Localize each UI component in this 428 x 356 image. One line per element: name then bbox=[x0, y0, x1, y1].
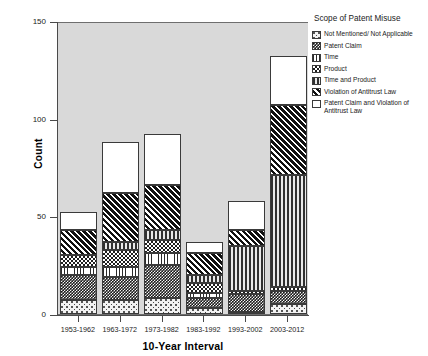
legend-item[interactable]: Not Mentioned/ Not Applicable bbox=[312, 30, 426, 39]
bar-segment bbox=[102, 142, 139, 193]
x-tick-mark bbox=[120, 315, 121, 322]
legend-item-label: Violation of Antitrust Law bbox=[324, 88, 426, 96]
bar-segment bbox=[270, 304, 307, 314]
legend-item[interactable]: Product bbox=[312, 65, 426, 74]
y-tick-mark bbox=[50, 315, 57, 316]
legend-swatch-icon bbox=[312, 77, 321, 85]
bar-segment bbox=[102, 300, 139, 314]
bar-segment bbox=[270, 175, 307, 286]
legend-item-label: Patent Claim and Violation of Antitrust … bbox=[324, 99, 426, 115]
legend-item[interactable]: Time bbox=[312, 53, 426, 62]
bar-group bbox=[60, 21, 97, 314]
legend-item-label: Time bbox=[324, 53, 426, 61]
bar-segment bbox=[144, 230, 181, 240]
bar-segment bbox=[186, 308, 223, 314]
bar-segment bbox=[60, 300, 97, 314]
bar-segment bbox=[144, 253, 181, 265]
legend-swatch-icon bbox=[312, 31, 321, 39]
legend-item-label: Time and Product bbox=[324, 76, 426, 84]
bar-group bbox=[144, 21, 181, 314]
bar-segment bbox=[144, 265, 181, 298]
bar-segment bbox=[228, 246, 265, 291]
y-tick-label: 50 bbox=[0, 213, 46, 221]
bar-segment bbox=[60, 275, 97, 300]
bar-segment bbox=[144, 185, 181, 230]
bar-segment bbox=[102, 193, 139, 242]
x-tick-label: 2003-2012 bbox=[261, 325, 313, 334]
bar-segment bbox=[186, 298, 223, 308]
x-tick-mark bbox=[203, 315, 204, 322]
bar-segment bbox=[144, 240, 181, 254]
stacked-bar-chart: 150100500 Count 1953-19621963-19721973-1… bbox=[0, 0, 428, 356]
bar-segment bbox=[60, 267, 97, 275]
x-axis-title: 10-Year Interval bbox=[57, 340, 309, 352]
legend-item-label: Not Mentioned/ Not Applicable bbox=[324, 30, 426, 38]
bar-segment bbox=[60, 230, 97, 255]
plot-area bbox=[57, 22, 308, 315]
bar-segment bbox=[60, 212, 97, 230]
legend-item[interactable]: Time and Product bbox=[312, 76, 426, 85]
y-tick-label: 0 bbox=[0, 311, 46, 319]
legend-item[interactable]: Patent Claim and Violation of Antitrust … bbox=[312, 99, 426, 115]
bar-segment bbox=[102, 250, 139, 268]
legend-items: Not Mentioned/ Not ApplicablePatent Clai… bbox=[312, 30, 426, 115]
legend-item[interactable]: Violation of Antitrust Law bbox=[312, 88, 426, 97]
legend-swatch-icon bbox=[312, 65, 321, 73]
bar-segment bbox=[270, 105, 307, 175]
legend-swatch-icon bbox=[312, 42, 321, 50]
legend-item-label: Patent Claim bbox=[324, 42, 426, 50]
bar-segment bbox=[144, 298, 181, 314]
x-tick-mark bbox=[245, 315, 246, 322]
bar-segment bbox=[102, 267, 139, 277]
x-tick-mark bbox=[78, 315, 79, 322]
bar-group bbox=[102, 21, 139, 314]
bars-layer bbox=[58, 23, 308, 314]
legend-swatch-icon bbox=[312, 54, 321, 62]
bar-segment bbox=[60, 255, 97, 267]
y-tick-mark bbox=[50, 120, 57, 121]
bar-segment bbox=[270, 56, 307, 105]
bar-segment bbox=[228, 230, 265, 246]
bar-segment bbox=[186, 293, 223, 299]
bar-segment bbox=[228, 312, 265, 314]
bar-group bbox=[270, 21, 307, 314]
y-tick-mark bbox=[50, 217, 57, 218]
legend-title: Scope of Patent Misuse bbox=[314, 14, 426, 24]
legend: Scope of Patent Misuse Not Mentioned/ No… bbox=[312, 14, 426, 118]
legend-item-label: Product bbox=[324, 65, 426, 73]
y-tick-label: 150 bbox=[0, 18, 46, 26]
bar-group bbox=[228, 21, 265, 314]
legend-item[interactable]: Patent Claim bbox=[312, 42, 426, 51]
bar-segment bbox=[270, 287, 307, 291]
y-tick-mark bbox=[50, 22, 57, 23]
bar-segment bbox=[270, 291, 307, 305]
bar-segment bbox=[228, 291, 265, 295]
x-axis-line bbox=[57, 315, 309, 316]
y-axis-title: Count bbox=[33, 94, 44, 214]
legend-swatch-icon bbox=[312, 88, 321, 96]
bar-segment bbox=[228, 201, 265, 230]
bar-segment bbox=[186, 275, 223, 283]
bar-segment bbox=[144, 134, 181, 185]
bar-segment bbox=[228, 294, 265, 312]
x-tick-mark bbox=[287, 315, 288, 322]
y-axis-line bbox=[57, 22, 58, 316]
bar-segment bbox=[102, 242, 139, 250]
bar-group bbox=[186, 21, 223, 314]
legend-swatch-icon bbox=[312, 100, 321, 108]
bar-segment bbox=[186, 283, 223, 293]
bar-segment bbox=[186, 253, 223, 274]
x-tick-mark bbox=[162, 315, 163, 322]
bar-segment bbox=[102, 277, 139, 300]
bar-segment bbox=[186, 242, 223, 254]
